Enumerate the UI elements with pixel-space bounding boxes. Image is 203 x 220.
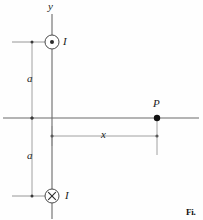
dimension-tick-a-lower-top <box>31 117 34 120</box>
y-axis-label: y <box>48 1 53 12</box>
circle-dot-icon <box>45 35 59 49</box>
point-label-p: P <box>153 98 160 109</box>
figure-caption-fragment: Fi. <box>186 207 195 217</box>
distance-label-a-upper: a <box>27 73 33 84</box>
distance-label-a-lower: a <box>27 150 33 161</box>
filled-dot-icon <box>154 115 160 121</box>
current-label-top: I <box>63 36 67 47</box>
figure-canvas <box>0 0 203 220</box>
dimension-tick-a-upper-top <box>31 41 34 44</box>
circle-cross-icon <box>45 189 59 203</box>
dimension-tick-a-lower-bottom <box>31 195 34 198</box>
current-label-bottom: I <box>65 190 69 201</box>
distance-label-x: x <box>101 129 106 140</box>
